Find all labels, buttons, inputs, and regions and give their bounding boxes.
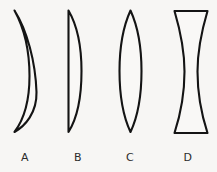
lens-label-a: A	[21, 151, 29, 164]
lens-label-c: C	[126, 151, 134, 164]
lens-label-b: B	[74, 151, 82, 164]
lens-diagram: A B C D	[0, 0, 217, 172]
lens-diagram-canvas: A B C D	[0, 0, 217, 172]
lens-label-d: D	[184, 151, 193, 164]
